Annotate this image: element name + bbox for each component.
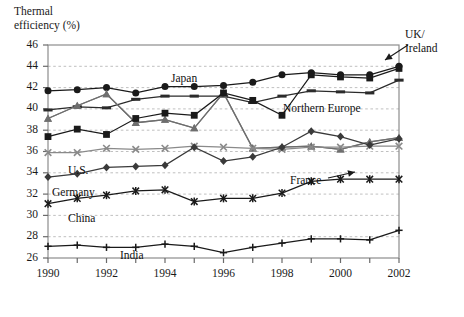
label-japan: Japan: [171, 72, 197, 84]
series-india: [44, 227, 402, 257]
y-tick-label: 42: [12, 80, 38, 92]
y-tick-label: 40: [12, 101, 38, 113]
chart-root: Thermal efficiency (%) 26283032343638404…: [0, 0, 464, 317]
arrow-france: [328, 170, 355, 178]
y-tick-label: 34: [12, 165, 38, 177]
x-tick-label: 2002: [377, 267, 421, 279]
label-china: China: [68, 212, 95, 224]
y-tick-label: 28: [12, 229, 38, 241]
y-tick-label: 30: [12, 208, 38, 220]
y-tick-label: 36: [12, 144, 38, 156]
x-tick-label: 2000: [319, 267, 363, 279]
y-tick-label: 46: [12, 38, 38, 50]
x-tick-label: 1992: [85, 267, 129, 279]
series-layer: [43, 63, 403, 256]
x-tick-label: 1998: [260, 267, 304, 279]
x-tick-label: 1994: [143, 267, 187, 279]
x-tick-label: 1996: [202, 267, 246, 279]
label-germany: Germany: [52, 186, 95, 198]
y-tick-label: 44: [12, 59, 38, 71]
series-france: [44, 89, 403, 153]
x-axis-ticks: [48, 258, 399, 263]
label-northern-europe: Northern Europe: [283, 102, 361, 114]
label-us: U.S.: [68, 164, 88, 176]
series-uk-ireland: [44, 89, 403, 153]
label-india: India: [120, 249, 144, 261]
label-uk-ireland: UK/ Ireland: [405, 28, 438, 55]
series-u-s-: [45, 143, 403, 156]
series-china: [45, 175, 403, 207]
y-tick-label: 26: [12, 251, 38, 263]
y-tick-label: 38: [12, 123, 38, 135]
label-france: France: [290, 174, 321, 186]
y-tick-label: 32: [12, 187, 38, 199]
x-tick-label: 1990: [26, 267, 70, 279]
